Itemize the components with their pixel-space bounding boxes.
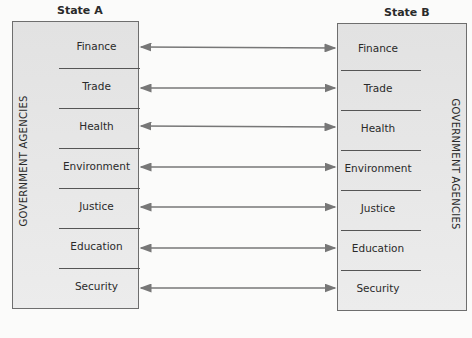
double-arrow-icon (141, 47, 335, 48)
double-arrow-icon (141, 126, 335, 127)
connector-arrows (0, 0, 472, 338)
